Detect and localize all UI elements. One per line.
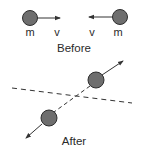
left-ball <box>23 11 38 26</box>
after-panel: After <box>12 61 132 147</box>
lower-velocity-arrow <box>26 124 42 138</box>
collision-diagram: m v v m Before After <box>0 0 143 157</box>
right-ball <box>113 10 128 25</box>
lower-ball <box>41 110 57 126</box>
center-connector-dashed <box>54 86 90 112</box>
left-mass-label: m <box>25 26 34 38</box>
right-velocity-label: v <box>89 26 95 38</box>
right-mass-label: m <box>113 26 122 38</box>
after-caption: After <box>62 135 86 147</box>
left-velocity-label: v <box>54 26 60 38</box>
before-panel: m v v m Before <box>23 10 128 55</box>
reference-dashed-line <box>12 88 132 103</box>
before-caption: Before <box>57 42 91 54</box>
upper-ball <box>88 72 104 88</box>
upper-velocity-arrow <box>102 61 123 75</box>
